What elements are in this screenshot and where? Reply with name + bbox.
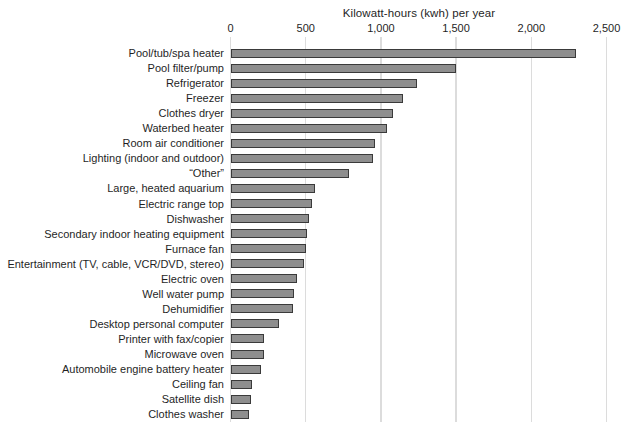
bar xyxy=(231,139,375,148)
bar xyxy=(231,289,294,298)
x-tick-label: 1,000 xyxy=(367,22,395,34)
bar-row: Secondary indoor heating equipment xyxy=(0,226,630,241)
bar-row: Dishwasher xyxy=(0,211,630,226)
x-axis-title: Kilowatt-hours (kwh) per year xyxy=(230,7,608,19)
bar-row: Pool/tub/spa heater xyxy=(0,46,630,61)
bar-row: Lighting (indoor and outdoor) xyxy=(0,151,630,166)
bar xyxy=(231,124,387,133)
category-label: Clothes dryer xyxy=(0,107,224,119)
bar xyxy=(231,49,577,58)
bar xyxy=(231,79,417,88)
bar-row: Satellite dish xyxy=(0,392,630,407)
bar xyxy=(231,109,393,118)
category-label: Well water pump xyxy=(0,288,224,300)
bar xyxy=(231,154,373,163)
bar xyxy=(231,214,309,223)
category-label: Room air conditioner xyxy=(0,137,224,149)
bar-row: Desktop personal computer xyxy=(0,316,630,331)
category-label: Lighting (indoor and outdoor) xyxy=(0,152,224,164)
category-label: Electric oven xyxy=(0,273,224,285)
category-label: Ceiling fan xyxy=(0,378,224,390)
bar xyxy=(231,380,253,389)
bar xyxy=(231,334,265,343)
category-label: Electric range top xyxy=(0,198,224,210)
bar xyxy=(231,410,250,419)
category-label: Automobile engine battery heater xyxy=(0,363,224,375)
category-label: Microwave oven xyxy=(0,348,224,360)
category-label: Secondary indoor heating equipment xyxy=(0,228,224,240)
bar-row: Dehumidifier xyxy=(0,301,630,316)
bar xyxy=(231,259,305,268)
bar-row: Microwave oven xyxy=(0,347,630,362)
category-label: Desktop personal computer xyxy=(0,318,224,330)
x-tick-label: 2,000 xyxy=(518,22,546,34)
bar xyxy=(231,94,404,103)
bar-row: Refrigerator xyxy=(0,76,630,91)
bar xyxy=(231,169,349,178)
bar-chart: Kilowatt-hours (kwh) per year 05001,0001… xyxy=(0,0,630,434)
bar-row: Clothes washer xyxy=(0,407,630,422)
bar-row: Room air conditioner xyxy=(0,136,630,151)
category-label: Freezer xyxy=(0,92,224,104)
bar xyxy=(231,304,293,313)
bar-row: Furnace fan xyxy=(0,241,630,256)
bar-row: Ceiling fan xyxy=(0,377,630,392)
category-label: Refrigerator xyxy=(0,77,224,89)
category-label: Waterbed heater xyxy=(0,122,224,134)
bar xyxy=(231,365,262,374)
bar-row: Clothes dryer xyxy=(0,106,630,121)
bar-row: Printer with fax/copier xyxy=(0,331,630,346)
bar xyxy=(231,319,280,328)
bar xyxy=(231,274,298,283)
bar-row: Electric range top xyxy=(0,196,630,211)
x-tick-label: 500 xyxy=(297,22,315,34)
bar-row: Entertainment (TV, cable, VCR/DVD, stere… xyxy=(0,256,630,271)
bar xyxy=(231,244,307,253)
bar-row: Electric oven xyxy=(0,271,630,286)
bar-row: Waterbed heater xyxy=(0,121,630,136)
category-label: Clothes washer xyxy=(0,408,224,420)
bar-row: Automobile engine battery heater xyxy=(0,362,630,377)
category-label: Printer with fax/copier xyxy=(0,333,224,345)
bar xyxy=(231,395,251,404)
bar xyxy=(231,64,457,73)
x-tick-label: 1,500 xyxy=(442,22,470,34)
category-label: Pool/tub/spa heater xyxy=(0,47,224,59)
category-label: Satellite dish xyxy=(0,393,224,405)
category-label: Furnace fan xyxy=(0,243,224,255)
x-tick-label: 2,500 xyxy=(593,22,621,34)
bar xyxy=(231,184,315,193)
category-label: Dehumidifier xyxy=(0,303,224,315)
bar-row: Freezer xyxy=(0,91,630,106)
bar xyxy=(231,199,312,208)
bar xyxy=(231,229,308,238)
category-label: Large, heated aquarium xyxy=(0,182,224,194)
category-label: Pool filter/pump xyxy=(0,62,224,74)
bar xyxy=(231,350,264,359)
bar-row: Pool filter/pump xyxy=(0,61,630,76)
category-label: Entertainment (TV, cable, VCR/DVD, stere… xyxy=(0,258,224,270)
x-tick-label: 0 xyxy=(227,22,233,34)
category-label: “Other” xyxy=(0,167,224,179)
category-label: Dishwasher xyxy=(0,213,224,225)
bar-row: Well water pump xyxy=(0,286,630,301)
bar-row: Large, heated aquarium xyxy=(0,181,630,196)
bar-row: “Other” xyxy=(0,166,630,181)
